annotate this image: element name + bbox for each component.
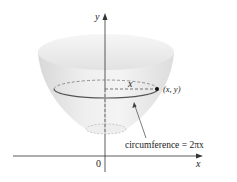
y-axis-arrow-icon [103,13,108,20]
y-axis-label: y [94,11,100,22]
paraboloid-diagram: y x 0 x (x, y) circumference = 2πx [0,0,237,182]
circumference-annotation: circumference = 2πx [125,140,204,150]
radius-label: x [127,78,133,89]
point-label: (x, y) [163,84,181,94]
point-marker [155,87,159,91]
top-rim [38,34,174,70]
bottom-ellipse [86,124,126,134]
origin-label: 0 [96,158,101,169]
x-axis-label: x [195,158,201,169]
